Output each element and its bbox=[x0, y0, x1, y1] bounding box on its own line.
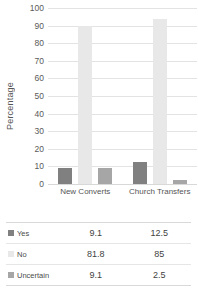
table-row: No81.885 bbox=[6, 244, 191, 265]
bar-yes bbox=[58, 168, 72, 184]
table-row-label-cell: Uncertain bbox=[6, 271, 64, 280]
table-row: Yes9.112.5 bbox=[6, 223, 191, 244]
legend-label: No bbox=[17, 250, 27, 259]
bar-yes bbox=[133, 162, 147, 184]
y-tick-80: 80 bbox=[18, 39, 44, 48]
legend-label: Uncertain bbox=[17, 271, 49, 280]
table-cell-value: 2.5 bbox=[128, 270, 192, 280]
legend-swatch-icon bbox=[8, 272, 14, 278]
table-row-label-cell: No bbox=[6, 250, 64, 259]
table-cell-value: 85 bbox=[128, 249, 192, 259]
y-tick-100: 100 bbox=[18, 4, 44, 13]
x-label-0: New Converts bbox=[48, 187, 123, 196]
bar-uncertain bbox=[173, 180, 187, 184]
y-axis-title: Percentage bbox=[3, 56, 17, 156]
y-tick-20: 20 bbox=[18, 145, 44, 154]
bar-no bbox=[153, 19, 167, 184]
legend-label: Yes bbox=[17, 229, 29, 238]
table-cell-value: 12.5 bbox=[128, 228, 192, 238]
y-tick-50: 50 bbox=[18, 92, 44, 101]
y-tick-40: 40 bbox=[18, 109, 44, 118]
legend-swatch-icon bbox=[8, 251, 14, 257]
plot-area: Percentage 0102030405060708090100 New Co… bbox=[0, 8, 197, 198]
gridline-0 bbox=[48, 184, 197, 185]
bar-group bbox=[123, 8, 198, 184]
y-tick-30: 30 bbox=[18, 127, 44, 136]
table-cell-value: 9.1 bbox=[64, 228, 128, 238]
y-tick-70: 70 bbox=[18, 57, 44, 66]
bar-uncertain bbox=[98, 168, 112, 184]
table-row-label-cell: Yes bbox=[6, 229, 64, 238]
table-cell-value: 9.1 bbox=[64, 270, 128, 280]
bar-group bbox=[48, 8, 123, 184]
y-tick-10: 10 bbox=[18, 162, 44, 171]
data-table: Yes9.112.5No81.885Uncertain9.12.5 bbox=[6, 222, 191, 286]
y-tick-0: 0 bbox=[18, 180, 44, 189]
table-cell-value: 81.8 bbox=[64, 249, 128, 259]
y-tick-90: 90 bbox=[18, 21, 44, 30]
y-tick-60: 60 bbox=[18, 74, 44, 83]
chart-container: Percentage 0102030405060708090100 New Co… bbox=[0, 0, 197, 293]
x-axis-tick-labels: New ConvertsChurch Transfers bbox=[48, 187, 197, 201]
table-row: Uncertain9.12.5 bbox=[6, 265, 191, 286]
bar-no bbox=[78, 26, 92, 184]
legend-swatch-icon bbox=[8, 230, 14, 236]
x-label-1: Church Transfers bbox=[123, 187, 198, 196]
bar-series-group bbox=[48, 8, 197, 184]
